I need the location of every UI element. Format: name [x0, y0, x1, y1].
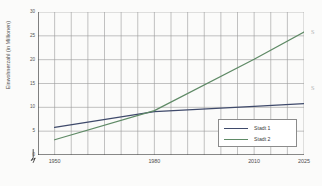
legend-item-stadt-2: Stadt 2 [224, 134, 291, 145]
chart-screenshot: Einwohnerzahl (in Millionen) 05101520253… [0, 0, 322, 186]
legend-swatch-stadt-2 [224, 139, 248, 140]
legend-label-stadt-2: Stadt 2 [254, 137, 270, 142]
legend-item-stadt-1: Stadt 1 [224, 123, 291, 134]
x-tick-1980: 1980 [148, 159, 160, 164]
chart-legend: Stadt 1 Stadt 2 [218, 119, 297, 147]
y-tick-10: 10 [21, 105, 35, 110]
x-tick-1950: 1950 [49, 159, 61, 164]
scan-edge-mark-lower: s [311, 82, 315, 92]
legend-label-stadt-1: Stadt 1 [254, 126, 270, 131]
y-tick-0: 0 [21, 153, 35, 158]
y-tick-20: 20 [21, 57, 35, 62]
y-tick-30: 30 [21, 10, 35, 15]
y-tick-5: 5 [21, 129, 35, 134]
x-tick-2010: 2010 [248, 159, 260, 164]
legend-swatch-stadt-1 [224, 128, 248, 129]
y-tick-15: 15 [21, 81, 35, 86]
x-tick-2025: 2025 [298, 159, 310, 164]
y-tick-25: 25 [21, 34, 35, 39]
y-axis-label: Einwohnerzahl (in Millionen) [5, 0, 11, 115]
scan-edge-mark-upper: s [311, 26, 315, 36]
